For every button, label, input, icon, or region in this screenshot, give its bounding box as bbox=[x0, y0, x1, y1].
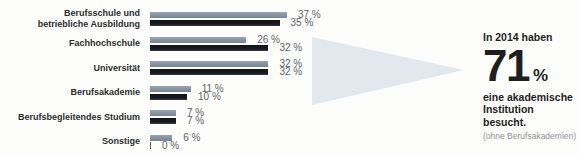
arrow-right-icon bbox=[312, 37, 464, 105]
bar-line: 35 % bbox=[150, 20, 321, 26]
value-label: 6 % bbox=[183, 135, 200, 141]
upper-gray-bar bbox=[150, 86, 191, 92]
value-label: 10 % bbox=[198, 94, 221, 100]
lower-black-bar bbox=[150, 45, 268, 51]
bar-line: 7 % bbox=[150, 118, 204, 124]
callout-percent-sign: % bbox=[533, 66, 548, 86]
upper-gray-bar bbox=[150, 110, 176, 116]
lower-black-bar bbox=[150, 94, 187, 100]
chart-row: Fachhochschule26 %32 % bbox=[0, 37, 321, 51]
lower-black-bar bbox=[150, 142, 151, 149]
category-label: Universität bbox=[0, 63, 150, 74]
chart: Berufsschule und betriebliche Ausbildung… bbox=[0, 0, 578, 157]
callout-note: (ohne Berufsakademien) bbox=[483, 131, 578, 141]
lower-black-bar bbox=[150, 69, 268, 75]
chart-row: Berufsakademie11 %10 % bbox=[0, 86, 321, 100]
callout-big-number-line: 71 % bbox=[483, 44, 578, 88]
value-label: 26 % bbox=[257, 37, 280, 43]
value-label: 0 % bbox=[162, 143, 179, 149]
bar-pair: 32 %32 % bbox=[150, 61, 302, 75]
bar-pair: 6 %0 % bbox=[150, 135, 200, 149]
value-label: 7 % bbox=[187, 118, 204, 124]
category-label: Berufsakademie bbox=[0, 87, 150, 98]
upper-gray-bar bbox=[150, 12, 287, 18]
value-label: 35 % bbox=[291, 20, 314, 26]
category-label: Berufsbegleitendes Studium bbox=[0, 112, 150, 123]
bar-line: 32 % bbox=[150, 45, 302, 51]
chart-row: Berufsschule und betriebliche Ausbildung… bbox=[0, 12, 321, 26]
callout-big-number: 71 bbox=[483, 44, 529, 88]
bar-pair: 11 %10 % bbox=[150, 86, 224, 100]
chart-row: Sonstige6 %0 % bbox=[0, 135, 321, 149]
bar-pair: 26 %32 % bbox=[150, 37, 302, 51]
chart-row: Berufsbegleitendes Studium7 %7 % bbox=[0, 110, 321, 124]
bar-line: 0 % bbox=[150, 143, 200, 149]
lower-black-bar bbox=[150, 118, 176, 124]
bar-line: 10 % bbox=[150, 94, 224, 100]
bar-line: 32 % bbox=[150, 69, 302, 75]
arrow-right-shape bbox=[312, 37, 464, 105]
value-label: 32 % bbox=[279, 69, 302, 75]
category-label: Berufsschule und betriebliche Ausbildung bbox=[0, 8, 150, 29]
bar-pair: 7 %7 % bbox=[150, 110, 204, 124]
upper-gray-bar bbox=[150, 61, 268, 67]
value-label: 32 % bbox=[279, 45, 302, 51]
chart-row: Universität32 %32 % bbox=[0, 61, 321, 75]
category-label: Fachhochschule bbox=[0, 38, 150, 49]
callout-panel: In 2014 haben 71 % eine akademische Inst… bbox=[483, 31, 578, 141]
chart-rows: Berufsschule und betriebliche Ausbildung… bbox=[0, 12, 321, 157]
upper-gray-bar bbox=[150, 37, 246, 43]
bar-pair: 37 %35 % bbox=[150, 12, 321, 26]
lower-black-bar bbox=[150, 20, 280, 26]
callout-description: eine akademische Institution besucht. bbox=[483, 91, 578, 128]
category-label: Sonstige bbox=[0, 136, 150, 147]
